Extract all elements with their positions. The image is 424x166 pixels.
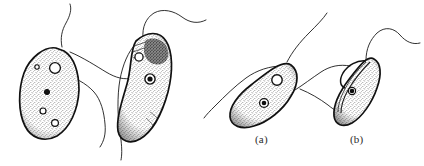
nucleus [350,89,355,94]
figure-container: (a) (b) [0,0,424,166]
vacuole-lower [52,120,59,127]
vacuole [135,53,143,61]
vacuole-large [50,63,61,74]
vacuole-mid [40,108,46,114]
vacuole [272,75,282,85]
panel-label-a: (a) [255,133,268,145]
caption-fragment [34,158,164,166]
nucleus [44,89,49,94]
vacuole-small-upper [35,65,39,69]
nucleus [262,101,267,106]
nucleus [147,76,152,81]
panel-label-b: (b) [350,133,363,145]
